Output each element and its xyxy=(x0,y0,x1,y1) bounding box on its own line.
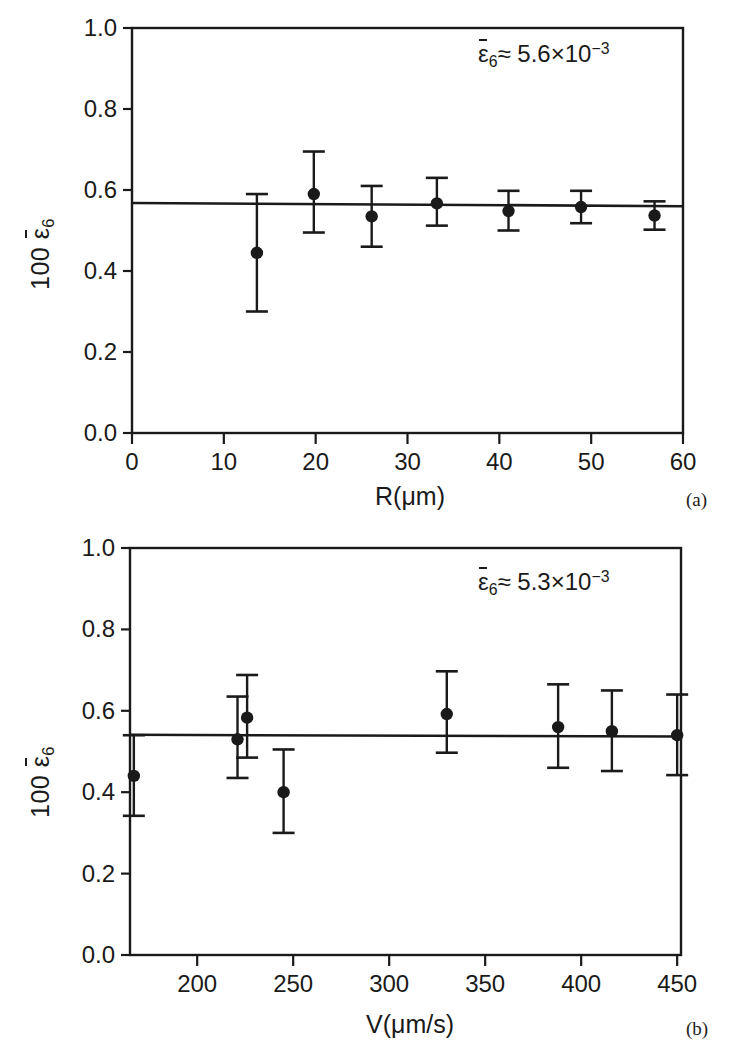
annotation-epsilon-bar-b: ε xyxy=(478,568,489,596)
y-tick-label: 0.4 xyxy=(84,257,117,284)
annotation-epsilon-bar-a: ε xyxy=(478,40,489,68)
epsilon-symbol: ε xyxy=(26,228,54,240)
annotation-relation-a: ≈ 5.6×10 xyxy=(498,40,592,67)
epsilon-symbol: ε xyxy=(26,756,54,768)
epsilon-subscript: 6 xyxy=(39,746,57,756)
x-tick-label: 10 xyxy=(210,448,237,475)
x-tick-label: 350 xyxy=(465,970,505,997)
overbar xyxy=(25,230,27,239)
overbar xyxy=(25,758,27,767)
epsilon-subscript: 6 xyxy=(39,218,57,228)
y-tick-label: 0.6 xyxy=(82,697,115,724)
overbar xyxy=(479,567,487,569)
plot-frame xyxy=(130,548,681,955)
y-tick-label: 0.8 xyxy=(84,95,117,122)
panel-b: 0.00.20.40.60.81.0200250300350400450 xyxy=(0,520,754,1062)
y-tick-label: 1.0 xyxy=(82,534,115,561)
y-tick-label: 1.0 xyxy=(84,14,117,41)
panel-tag-b: (b) xyxy=(686,1018,708,1040)
overbar xyxy=(479,39,487,41)
annotation-epsilon-b: ε xyxy=(478,568,489,595)
y-axis-label-prefix: 100 xyxy=(26,247,54,290)
plot-frame xyxy=(132,28,683,433)
data-point-with-error-bar xyxy=(303,152,325,233)
data-point-with-error-bar xyxy=(570,191,592,223)
annotation-a: ε6≈ 5.6×10−3 xyxy=(478,40,609,71)
y-tick-label: 0.6 xyxy=(84,176,117,203)
x-tick-label: 50 xyxy=(578,448,605,475)
y-tick-label: 0.0 xyxy=(82,941,115,968)
y-axis-label-prefix: 100 xyxy=(26,775,54,818)
x-tick-label: 200 xyxy=(177,970,217,997)
data-point-with-error-bar xyxy=(666,695,688,776)
x-tick-label: 450 xyxy=(657,970,697,997)
x-tick-label: 300 xyxy=(369,970,409,997)
data-point-with-error-bar xyxy=(436,671,458,752)
annotation-subscript-b: 6 xyxy=(489,581,498,598)
annotation-b: ε6≈ 5.3×10−3 xyxy=(478,568,609,599)
annotation-relation-b: ≈ 5.3×10 xyxy=(498,568,592,595)
y-tick-label: 0.2 xyxy=(84,338,117,365)
data-point-with-error-bar xyxy=(426,178,448,226)
fit-line xyxy=(130,735,681,737)
data-point-with-error-bar xyxy=(227,697,249,778)
x-tick-label: 60 xyxy=(670,448,697,475)
y-axis-label-b: 100 ε6 xyxy=(26,746,58,818)
x-tick-label: 20 xyxy=(302,448,329,475)
x-tick-label: 400 xyxy=(561,970,601,997)
panel-tag-a: (a) xyxy=(686,489,707,511)
epsilon-bar: ε xyxy=(26,756,55,768)
x-axis-label-a: R(μm) xyxy=(310,482,510,511)
data-point-with-error-bar xyxy=(246,194,268,311)
plot-b: 0.00.20.40.60.81.0200250300350400450 xyxy=(0,520,754,1062)
panel-a: 0.00.20.40.60.81.00102030405060 100 ε6 R… xyxy=(0,0,754,530)
annotation-epsilon-a: ε xyxy=(478,40,489,67)
y-tick-label: 0.2 xyxy=(82,860,115,887)
data-point-with-error-bar xyxy=(547,684,569,767)
y-tick-label: 0.8 xyxy=(82,615,115,642)
data-point-with-error-bar xyxy=(273,749,295,832)
fit-line xyxy=(132,203,683,206)
data-point-with-error-bar xyxy=(601,690,623,771)
data-point-with-error-bar xyxy=(123,735,145,816)
annotation-subscript-a: 6 xyxy=(489,53,498,70)
data-point-with-error-bar xyxy=(361,186,383,247)
x-tick-label: 30 xyxy=(394,448,421,475)
x-axis-label-b: V(μm/s) xyxy=(310,1010,510,1039)
x-tick-label: 0 xyxy=(125,448,138,475)
data-point-with-error-bar xyxy=(498,191,520,231)
x-tick-label: 40 xyxy=(486,448,513,475)
x-tick-label: 250 xyxy=(273,970,313,997)
annotation-exponent-a: −3 xyxy=(591,40,609,57)
annotation-exponent-b: −3 xyxy=(591,568,609,585)
epsilon-bar: ε xyxy=(26,228,55,240)
data-point-with-error-bar xyxy=(236,675,258,758)
y-axis-label-a: 100 ε6 xyxy=(26,218,58,290)
plot-a: 0.00.20.40.60.81.00102030405060 xyxy=(0,0,754,530)
y-tick-label: 0.0 xyxy=(84,419,117,446)
y-tick-label: 0.4 xyxy=(82,778,115,805)
